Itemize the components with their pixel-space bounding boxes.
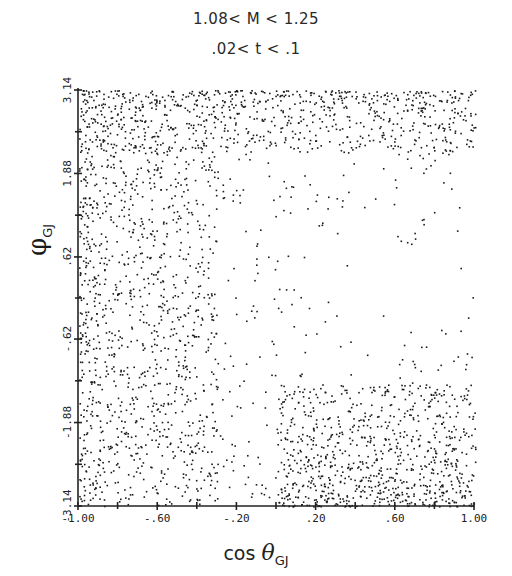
scatter-point [191, 464, 193, 466]
scatter-point [94, 357, 96, 359]
scatter-point [293, 289, 295, 291]
scatter-point [142, 182, 144, 184]
scatter-point [111, 91, 113, 93]
scatter-point [193, 329, 195, 331]
scatter-point [195, 298, 197, 300]
scatter-point [345, 450, 347, 452]
scatter-point [171, 403, 173, 405]
scatter-point [470, 491, 472, 493]
scatter-point [163, 223, 165, 225]
scatter-point [91, 382, 93, 384]
scatter-point [94, 305, 96, 307]
scatter-point [197, 316, 199, 318]
scatter-point [135, 111, 137, 113]
scatter-point [370, 494, 372, 496]
scatter-point [211, 480, 213, 482]
scatter-point [144, 496, 146, 498]
scatter-point [363, 420, 365, 422]
scatter-point [224, 368, 226, 370]
scatter-point [314, 114, 316, 116]
scatter-point [253, 135, 255, 137]
scatter-point [283, 210, 285, 212]
scatter-point [139, 150, 141, 152]
scatter-point [233, 142, 235, 144]
scatter-point [110, 216, 112, 218]
scatter-point [97, 114, 99, 116]
scatter-point [92, 484, 94, 486]
scatter-point [282, 127, 284, 129]
scatter-point [125, 175, 127, 177]
scatter-point [130, 184, 132, 186]
scatter-point [432, 457, 434, 459]
scatter-point [111, 111, 113, 113]
scatter-point [105, 183, 107, 185]
scatter-point [341, 98, 343, 100]
scatter-point [142, 106, 144, 108]
scatter-point [365, 416, 367, 418]
scatter-point [275, 216, 277, 218]
scatter-point [403, 110, 405, 112]
scatter-point [93, 286, 95, 288]
scatter-point [206, 106, 208, 108]
scatter-point [338, 423, 340, 425]
scatter-point [187, 445, 189, 447]
scatter-point [154, 344, 156, 346]
scatter-point [128, 209, 130, 211]
scatter-point [132, 399, 134, 401]
scatter-point [221, 121, 223, 123]
scatter-point [184, 344, 186, 346]
scatter-point [378, 116, 380, 118]
scatter-point [211, 332, 213, 334]
scatter-point [377, 496, 379, 498]
scatter-point [403, 92, 405, 94]
scatter-point [128, 214, 130, 216]
scatter-point [375, 454, 377, 456]
scatter-point [126, 432, 128, 434]
scatter-point [109, 448, 111, 450]
scatter-point [237, 113, 239, 115]
scatter-point [108, 300, 110, 302]
scatter-point [87, 327, 89, 329]
scatter-point [104, 283, 106, 285]
scatter-point [95, 293, 97, 295]
scatter-point [86, 420, 88, 422]
scatter-point [161, 472, 163, 474]
scatter-point [209, 495, 211, 497]
scatter-point [309, 436, 311, 438]
scatter-point [179, 215, 181, 217]
scatter-point [434, 460, 436, 462]
scatter-point [161, 127, 163, 129]
scatter-point [162, 161, 164, 163]
scatter-point [92, 397, 94, 399]
scatter-point [162, 96, 164, 98]
scatter-point [254, 99, 256, 101]
x-tick-labels: -1.00-.60-.20.20.601.00 [61, 512, 487, 525]
scatter-point [161, 307, 163, 309]
scatter-point [397, 498, 399, 500]
scatter-point [181, 441, 183, 443]
scatter-point [369, 140, 371, 142]
scatter-point [380, 117, 382, 119]
scatter-point [411, 468, 413, 470]
scatter-point [142, 196, 144, 198]
scatter-point [463, 431, 465, 433]
scatter-point [168, 95, 170, 97]
scatter-point [120, 411, 122, 413]
scatter-point [187, 223, 189, 225]
scatter-point [133, 147, 135, 149]
scatter-point [141, 386, 143, 388]
scatter-point [401, 118, 403, 120]
scatter-point [187, 336, 189, 338]
scatter-point [265, 488, 267, 490]
scatter-point [442, 123, 444, 125]
scatter-point [337, 442, 339, 444]
scatter-point [369, 477, 371, 479]
scatter-point [229, 117, 231, 119]
scatter-point [317, 194, 319, 196]
scatter-point [333, 454, 335, 456]
scatter-point [143, 322, 145, 324]
scatter-point [186, 464, 188, 466]
scatter-point [282, 407, 284, 409]
scatter-point [422, 220, 424, 222]
scatter-point [257, 273, 259, 275]
